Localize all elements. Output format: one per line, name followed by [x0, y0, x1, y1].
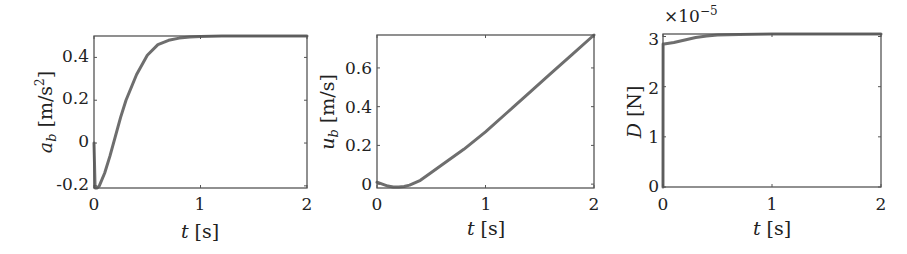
panel-ub: 0 0.2 0.4 0.6 0 1 2 t[s] ub[m/s]: [316, 35, 599, 239]
panel-ab: -0.2 0 0.2 0.4 0 1 2 t[s] ab[m/s2]: [33, 36, 312, 242]
ytick-label: 3: [648, 29, 659, 49]
plot-area-D: [663, 34, 881, 187]
ticks-ub: [377, 35, 594, 188]
xtick-label: 0: [372, 194, 383, 214]
ticks-ab: [94, 36, 307, 188]
xlabel-ub: t[s]: [467, 217, 505, 239]
xtick-label: 2: [302, 194, 313, 214]
ytick-label: 0.2: [62, 88, 89, 108]
xtick-label: 1: [767, 194, 778, 214]
xlabel-D: t[s]: [753, 217, 791, 239]
ylabel-ab: ab[m/s2]: [33, 71, 59, 153]
plot-area-ab: [94, 36, 307, 188]
ylabel-ub: ub[m/s]: [316, 74, 341, 150]
axes-box-ab: [94, 36, 307, 188]
axes-box-D: [663, 34, 881, 187]
panel-D: 0 1 2 3 0 1 2 t[s] D[N] ×10−5: [623, 4, 886, 239]
xtick-label: 0: [658, 194, 669, 214]
ytick-label: 0: [361, 174, 372, 194]
ytick-label: 2: [648, 78, 659, 98]
series-line-a_b: [94, 36, 307, 188]
figure: -0.2 0 0.2 0.4 0 1 2 t[s] ab[m/s2] 0 0.2…: [0, 0, 907, 254]
series-line-u_b: [377, 35, 594, 187]
plot-area-ub: [377, 35, 594, 187]
ytick-label: 0.4: [62, 46, 89, 66]
xtick-label: 1: [195, 194, 206, 214]
ytick-label: 0: [648, 176, 659, 196]
ytick-label: 0.6: [345, 58, 372, 78]
axes-box-ub: [377, 35, 594, 188]
ytick-label: 0.4: [345, 97, 372, 117]
xtick-label: 0: [89, 194, 100, 214]
ylabel-D: D[N]: [623, 86, 645, 140]
ytick-label: 0.2: [345, 135, 372, 155]
ytick-label: 1: [648, 127, 659, 147]
series-line-D: [663, 34, 881, 187]
ytick-label: -0.2: [56, 174, 89, 194]
y-multiplier: ×10−5: [664, 4, 718, 26]
xtick-label: 1: [481, 194, 492, 214]
xtick-label: 2: [589, 194, 600, 214]
xtick-label: 2: [876, 194, 887, 214]
ticks-D: [663, 34, 881, 187]
ytick-label: 0: [78, 131, 89, 151]
xlabel-ab: t[s]: [181, 220, 219, 242]
